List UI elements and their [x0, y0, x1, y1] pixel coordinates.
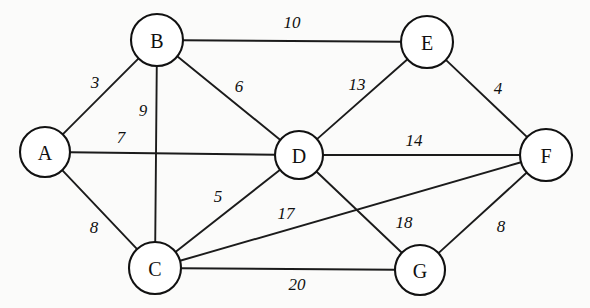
node-f[interactable]: F — [520, 129, 572, 181]
node-label-f: F — [540, 145, 551, 167]
edge-e-f — [446, 60, 527, 137]
edge-weight-d-f: 14 — [406, 131, 424, 150]
edge-b-c — [155, 66, 157, 242]
node-label-d: D — [292, 145, 306, 167]
edge-weight-d-e: 13 — [349, 75, 366, 94]
node-e[interactable]: E — [401, 16, 453, 68]
node-label-c: C — [148, 258, 161, 280]
node-a[interactable]: A — [20, 127, 70, 177]
edge-weight-f-g: 8 — [497, 217, 506, 236]
edge-weight-c-f: 17 — [278, 204, 297, 223]
edge-weight-c-g: 20 — [289, 275, 307, 294]
node-label-g: G — [413, 260, 427, 282]
edge-d-g — [316, 172, 401, 253]
edge-a-d — [70, 152, 275, 154]
node-d[interactable]: D — [275, 131, 323, 179]
graph-diagram-canvas: 37810961341451718208 ABCDEFG — [0, 0, 590, 308]
edge-weight-b-d: 6 — [235, 77, 244, 96]
edge-weight-a-b: 3 — [90, 73, 100, 92]
edge-weight-c-d: 5 — [214, 187, 223, 206]
edge-b-e — [183, 40, 401, 42]
edge-weight-a-d: 7 — [117, 128, 127, 147]
node-label-b: B — [150, 30, 163, 52]
node-label-a: A — [38, 142, 53, 164]
node-g[interactable]: G — [395, 245, 445, 295]
edge-f-g — [438, 173, 526, 254]
edge-weight-d-g: 18 — [396, 213, 414, 232]
edge-c-g — [181, 268, 395, 270]
edge-weight-b-c: 9 — [139, 101, 148, 120]
edge-b-d — [177, 56, 280, 140]
graph-svg: 37810961341451718208 ABCDEFG — [0, 0, 590, 308]
edge-c-f — [180, 162, 521, 261]
node-label-e: E — [421, 32, 433, 54]
edge-a-c — [62, 170, 137, 249]
edge-c-d — [175, 170, 280, 252]
edge-a-b — [63, 58, 139, 134]
edge-weight-e-f: 4 — [494, 79, 503, 98]
edge-weight-b-e: 10 — [284, 13, 302, 32]
node-b[interactable]: B — [131, 14, 183, 66]
edge-d-e — [317, 59, 408, 139]
node-c[interactable]: C — [129, 242, 181, 294]
edge-weight-a-c: 8 — [90, 218, 99, 237]
